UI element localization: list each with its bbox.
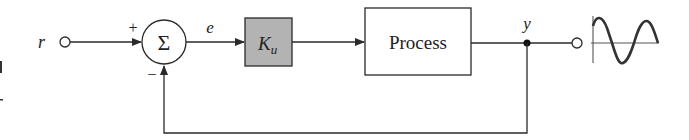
sine-wave-icon	[591, 16, 659, 63]
output-terminal	[572, 38, 582, 48]
left-edge-marks	[0, 61, 3, 101]
plus-sign: +	[128, 19, 137, 36]
input-label-r: r	[38, 32, 46, 52]
minus-sign: −	[147, 66, 156, 83]
error-label-e: e	[206, 18, 214, 37]
block-diagram: r Σ + − e Ku Process y	[0, 0, 689, 140]
process-label: Process	[389, 32, 447, 53]
output-label-y: y	[521, 14, 531, 33]
feedback-path	[164, 43, 527, 133]
input-terminal	[60, 37, 70, 47]
sigma-symbol: Σ	[158, 30, 171, 55]
